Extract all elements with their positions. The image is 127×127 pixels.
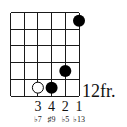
fretboard-grid xyxy=(11,13,80,97)
start-fret-label: 12fr. xyxy=(82,81,116,101)
finger-number: 2 xyxy=(62,99,69,114)
finger-number: 4 xyxy=(48,99,55,114)
finger-dots xyxy=(32,15,85,94)
finger-numbers: 3421 xyxy=(34,99,82,114)
interval-label: ♭13 xyxy=(73,115,85,124)
finger-number: 1 xyxy=(76,99,83,114)
finger-dot-icon xyxy=(59,65,71,77)
finger-dot-icon xyxy=(73,15,85,27)
interval-label: ♭7 xyxy=(34,115,42,124)
interval-labels: ♭7♯9♭5♭13 xyxy=(34,115,85,124)
chord-diagram: 12fr. 3421 ♭7♯9♭5♭13 xyxy=(0,0,127,127)
finger-number: 3 xyxy=(34,99,41,114)
finger-dot-icon xyxy=(46,82,58,94)
interval-label: ♯9 xyxy=(48,115,56,124)
open-note-circle-icon xyxy=(32,82,43,93)
interval-label: ♭5 xyxy=(61,115,69,124)
